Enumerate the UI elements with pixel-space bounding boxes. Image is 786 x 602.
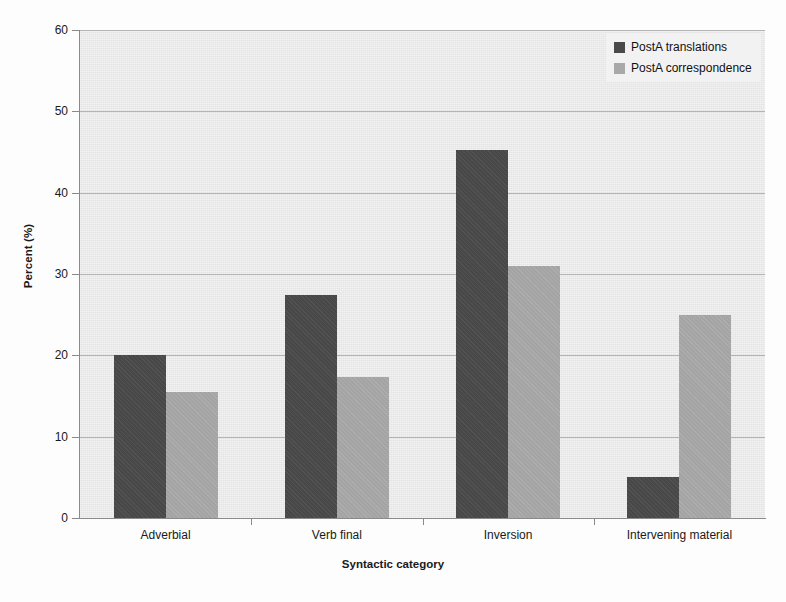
bar-verb-final-series0[interactable] (285, 295, 337, 518)
x-tick-label-verb-final: Verb final (312, 528, 362, 542)
bar-intervening-material-series0[interactable] (627, 477, 679, 518)
y-tick-label-50: 50 (28, 104, 68, 118)
y-axis-line (79, 30, 80, 519)
x-tick-label-intervening-material: Intervening material (627, 528, 732, 542)
x-tick-label-inversion: Inversion (484, 528, 533, 542)
y-tick-mark-10 (72, 437, 79, 438)
y-tick-mark-60 (72, 30, 79, 31)
x-axis-title: Syntactic category (0, 558, 786, 570)
x-tick-label-adverbial: Adverbial (141, 528, 191, 542)
bar-texture (114, 355, 166, 518)
bar-inversion-series1[interactable] (508, 266, 560, 518)
y-tick-label-0: 0 (28, 511, 68, 525)
y-tick-label-20: 20 (28, 348, 68, 362)
y-tick-mark-0 (72, 518, 79, 519)
bar-texture (456, 150, 508, 518)
legend-item-0[interactable]: PostA translations (614, 40, 752, 54)
y-tick-mark-40 (72, 193, 79, 194)
legend-label-series0: PostA translations (631, 40, 727, 54)
bar-texture (508, 266, 560, 518)
gridline-60 (80, 30, 765, 31)
bar-texture (166, 392, 218, 518)
bar-adverbial-series1[interactable] (166, 392, 218, 518)
gridline-30 (80, 274, 765, 275)
bar-texture (679, 315, 731, 518)
legend-item-1[interactable]: PostA correspondence (614, 61, 752, 75)
legend-swatch-icon-series0 (614, 42, 625, 53)
bar-intervening-material-series1[interactable] (679, 315, 731, 518)
x-tick-mark-3 (594, 518, 595, 525)
gridline-20 (80, 355, 765, 356)
x-tick-mark-1 (251, 518, 252, 525)
bar-adverbial-series0[interactable] (114, 355, 166, 518)
y-tick-label-60: 60 (28, 23, 68, 37)
bar-inversion-series0[interactable] (456, 150, 508, 518)
y-tick-label-10: 10 (28, 430, 68, 444)
y-tick-mark-30 (72, 274, 79, 275)
legend-label-series1: PostA correspondence (631, 61, 752, 75)
bar-texture (285, 295, 337, 518)
plot-area (80, 30, 765, 518)
bar-texture (337, 377, 389, 519)
legend-swatch-icon-series1 (614, 63, 625, 74)
bar-verb-final-series1[interactable] (337, 377, 389, 519)
bar-texture (627, 477, 679, 518)
gridline-40 (80, 193, 765, 194)
legend: PostA translations PostA correspondence (606, 33, 761, 82)
y-axis-title: Percent (%) (22, 176, 34, 336)
y-tick-mark-20 (72, 355, 79, 356)
x-tick-mark-2 (423, 518, 424, 525)
gridline-50 (80, 111, 765, 112)
y-tick-mark-50 (72, 111, 79, 112)
y-tick-label-30: 30 (28, 267, 68, 281)
y-tick-label-40: 40 (28, 186, 68, 200)
chart-figure: Percent (%) 0102030405060 AdverbialVerb … (0, 0, 786, 602)
